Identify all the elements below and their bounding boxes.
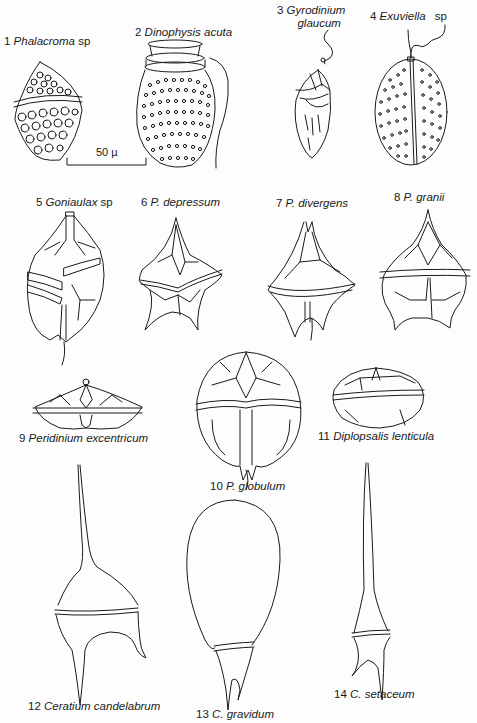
label-5: 5 Goniaulax sp xyxy=(36,196,113,209)
drawing-ceratium-gravidum xyxy=(187,500,280,710)
drawing-exuviella xyxy=(375,25,447,165)
drawing-p-divergens xyxy=(268,222,355,340)
drawing-goniaulax xyxy=(27,212,104,365)
scale-bar xyxy=(67,158,146,165)
drawing-peridinium-excentricum xyxy=(33,379,142,429)
drawing-gyrodinium xyxy=(295,30,332,158)
label-8: 8 P. granii xyxy=(394,191,444,204)
specimen-drawings xyxy=(0,0,477,723)
label-4: 4 Exuviella sp xyxy=(370,10,447,23)
label-3: 3 Gyrodinium glaucum xyxy=(277,4,345,30)
drawing-p-depressum xyxy=(139,218,222,330)
drawing-diplopsalis xyxy=(333,368,424,428)
label-11: 11 Diplopsalis lenticula xyxy=(318,430,434,443)
label-10: 10 P. globulum xyxy=(210,480,285,493)
label-1: 1 Phalacroma sp xyxy=(4,35,90,48)
drawing-dinophysis xyxy=(137,40,228,168)
label-12: 12 Ceratium candelabrum xyxy=(28,700,160,713)
label-2: 2 Dinophysis acuta xyxy=(135,26,232,39)
drawing-p-globulum xyxy=(196,352,301,490)
label-14: 14 C. setaceum xyxy=(334,688,415,701)
drawing-phalacroma xyxy=(14,62,82,160)
scale-bar-label: 50 µ xyxy=(96,146,118,158)
label-13: 13 C. gravidum xyxy=(196,708,274,721)
dinoflagellate-plate: 50 µ 1 Phalacroma sp 2 Dinophysis acuta … xyxy=(0,0,477,723)
label-7: 7 P. divergens xyxy=(276,197,348,210)
label-9: 9 Peridinium excentricum xyxy=(19,432,148,445)
drawing-p-granii xyxy=(380,210,470,330)
drawing-ceratium-setaceum xyxy=(352,463,390,700)
drawing-ceratium-candelabrum xyxy=(55,465,146,705)
label-6: 6 P. depressum xyxy=(141,196,220,209)
